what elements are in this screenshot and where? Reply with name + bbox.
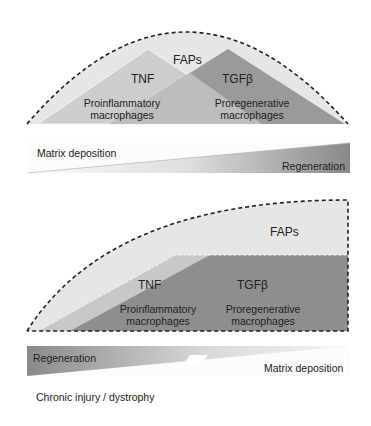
top-tgfb-label: TGFβ — [222, 73, 253, 85]
top-proinflammatory-label: Proinflammatory macrophages — [82, 97, 162, 121]
caption: Chronic injury / dystrophy — [36, 391, 154, 403]
top-proregenerative-label: Proregenerative macrophages — [212, 97, 292, 121]
bottom-tnf-label: TNF — [138, 279, 161, 291]
top-panel — [27, 32, 348, 124]
bottom-proinflammatory-label: Proinflammatory macrophages — [113, 303, 203, 327]
bottom-tgfb-label: TGFβ — [237, 279, 268, 291]
bottom-bar-right-label: Matrix deposition — [264, 362, 343, 374]
top-bar-right-label: Regeneration — [282, 160, 345, 172]
top-tnf-label: TNF — [131, 73, 154, 85]
top-bar-left-label: Matrix deposition — [37, 147, 116, 159]
top-faps-label: FAPs — [173, 54, 202, 66]
bottom-bar-left-label: Regeneration — [33, 352, 96, 364]
bottom-proregenerative-label: Proregenerative macrophages — [218, 303, 308, 327]
bottom-faps-label: FAPs — [270, 226, 299, 238]
